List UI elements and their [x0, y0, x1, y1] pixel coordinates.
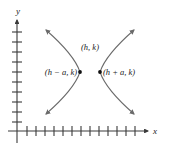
y-axis-label: y: [15, 6, 20, 16]
right-vertex-point: [98, 70, 102, 74]
y-axis: [12, 20, 22, 143]
hyperbola-figure: (h − a, k) (h + a, k) (h, k) x y: [0, 0, 169, 147]
x-axis-label: x: [152, 126, 157, 136]
left-vertex-point: [78, 70, 82, 74]
right-vertex-label: (h + a, k): [103, 67, 135, 77]
center-label: (h, k): [81, 42, 99, 52]
x-axis: [8, 126, 148, 136]
hyperbola-diagram-svg: (h − a, k) (h + a, k) (h, k) x y: [0, 0, 169, 147]
left-vertex-label: (h − a, k): [45, 67, 77, 77]
